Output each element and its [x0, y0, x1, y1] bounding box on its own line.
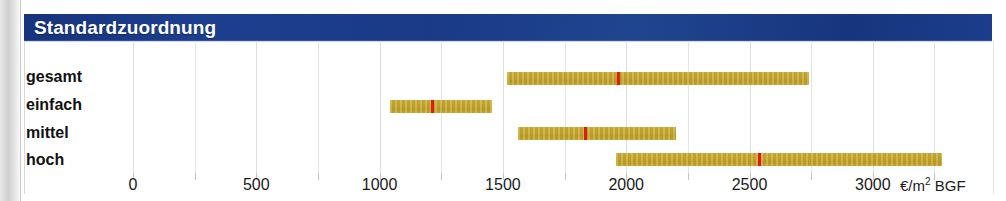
- axis-tick-label-1000: 1000: [362, 176, 398, 194]
- category-label-gesamt: gesamt: [26, 68, 82, 86]
- axis-tick-label-1500: 1500: [485, 176, 521, 194]
- chart-title-bar: Standardzuordnung: [24, 14, 992, 41]
- median-marker-einfach: [431, 100, 434, 113]
- gridline-250: [195, 41, 196, 173]
- median-marker-mittel: [584, 127, 587, 140]
- axis-tick-label-500: 500: [243, 176, 270, 194]
- axis-tick-label-3000: 3000: [855, 176, 891, 194]
- axis-tick-750: [318, 173, 319, 180]
- axis-tick-label-2000: 2000: [608, 176, 644, 194]
- range-bar-gesamt: [507, 72, 809, 85]
- axis-tick-label-0: 0: [129, 176, 138, 194]
- gridline-0: [133, 41, 134, 173]
- axis-tick-label-2500: 2500: [732, 176, 768, 194]
- axis-unit-suffix: BGF: [931, 177, 966, 194]
- category-label-hoch: hoch: [26, 151, 64, 169]
- axis-tick-2250: [688, 173, 689, 180]
- median-marker-gesamt: [617, 72, 620, 85]
- median-marker-hoch: [758, 153, 761, 166]
- category-label-mittel: mittel: [26, 124, 69, 142]
- gridline-1000: [380, 41, 381, 173]
- range-bar-mittel: [518, 127, 676, 140]
- axis-tick-2750: [811, 173, 812, 180]
- page-edge-divider: [20, 0, 21, 201]
- axis-tick-1250: [441, 173, 442, 180]
- scanned-page-gutter: [0, 0, 22, 201]
- gridline-500: [256, 41, 257, 173]
- axis-unit-label: €/m2 BGF: [900, 176, 966, 194]
- chart-figure: Standardzuordnung gesamteinfachmittelhoc…: [22, 0, 992, 201]
- category-label-einfach: einfach: [26, 96, 82, 114]
- axis-tick-250: [195, 173, 196, 180]
- gridline-750: [318, 41, 319, 173]
- gridline-1750: [565, 41, 566, 173]
- range-bar-einfach: [390, 100, 492, 113]
- range-bar-hoch: [616, 153, 942, 166]
- page-title: Standardzuordnung: [34, 17, 216, 39]
- axis-unit-currency: €/m: [900, 177, 925, 194]
- page-right-margin: [992, 0, 1006, 201]
- gridline-1500: [503, 41, 504, 173]
- axis-tick-1750: [565, 173, 566, 180]
